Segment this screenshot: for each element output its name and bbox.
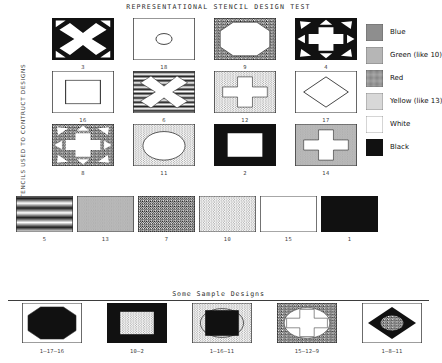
stencil-cell: [214, 18, 276, 60]
legend-label: Red: [390, 74, 403, 82]
stencil-swatch-18: [133, 18, 195, 60]
stencil-cell: [295, 124, 357, 166]
sample-swatch-3: [277, 303, 337, 343]
legend-swatch-blue: [366, 24, 383, 39]
stencil-cell: [260, 196, 317, 232]
stencil-number: 16: [52, 117, 114, 123]
legend-swatch-blue-fill: [366, 24, 383, 41]
sample-design: 10–2: [107, 303, 167, 354]
stencil-cell: [133, 124, 195, 166]
stencil-number: 1: [321, 236, 378, 242]
sample-design: 1–8–11: [362, 303, 422, 354]
sample-design: 1–16–11: [192, 303, 252, 354]
section-divider: [8, 300, 429, 301]
stencil-cell: [321, 196, 378, 232]
legend-label: Blue: [390, 28, 406, 36]
legend-swatch-red-fill: [366, 70, 383, 87]
sample-swatch-4: [362, 303, 422, 343]
legend-row: Black: [366, 135, 438, 158]
stencil-number: 18: [133, 64, 195, 70]
legend-swatch-black-fill: [366, 139, 383, 156]
stencil-number: 6: [133, 117, 195, 123]
stencil-cell: [16, 196, 73, 232]
legend-swatch-black: [366, 139, 383, 154]
stencil-cell: [214, 71, 276, 113]
stencil-cell: [52, 124, 114, 166]
stencil-cell: [295, 18, 357, 60]
legend-row: Blue: [366, 20, 438, 43]
stencil-cell: [133, 71, 195, 113]
stencil-number: 15: [260, 236, 317, 242]
stencil-number: 10: [199, 236, 256, 242]
sample-design: 1–17–16: [22, 303, 82, 354]
sample-designs-row: 1–17–1610–21–16–1115–12–91–8–11: [0, 303, 437, 361]
stencil-number: 2: [214, 170, 276, 176]
stencil-swatch-14: [295, 124, 357, 166]
stencil-swatch-6: [133, 71, 195, 113]
legend-swatch-white: [366, 116, 383, 131]
stencil-swatch-17: [295, 71, 357, 113]
legend-label: Black: [390, 143, 409, 151]
sample-swatch-1: [107, 303, 167, 343]
sample-label: 1–17–16: [22, 348, 82, 354]
stencil-number: 8: [52, 170, 114, 176]
stencil-number: 4: [295, 64, 357, 70]
legend-row: White: [366, 112, 438, 135]
stencil-swatch-2: [214, 124, 276, 166]
stencil-swatch-9: [214, 18, 276, 60]
legend-label: Yellow (like 13): [390, 97, 442, 105]
legend-swatch-white-fill: [366, 116, 383, 133]
legend-swatch-green-fill: [366, 47, 383, 64]
stencil-cell: [295, 71, 357, 113]
stencil-number: 5: [16, 236, 73, 242]
stencil-swatch-7: [138, 196, 195, 232]
stencil-number: 13: [77, 236, 134, 242]
stencil-swatch-8: [52, 124, 114, 166]
stencil-number: 3: [52, 64, 114, 70]
stencil-number: 12: [214, 117, 276, 123]
stencil-swatch-1: [321, 196, 378, 232]
legend-swatch-yellow-fill: [366, 93, 383, 110]
stencil-number: 7: [138, 236, 195, 242]
stencil-number: 9: [214, 64, 276, 70]
stencil-cell: [138, 196, 195, 232]
stencil-swatch-16: [52, 71, 114, 113]
sample-swatch-2: [192, 303, 252, 343]
sample-design: 15–12–9: [277, 303, 337, 354]
stencil-cell: [214, 124, 276, 166]
stencil-swatch-11: [133, 124, 195, 166]
stencil-cell: [52, 71, 114, 113]
legend-swatch-green: [366, 47, 383, 62]
legend-row: Red: [366, 66, 438, 89]
stencil-cell: [77, 196, 134, 232]
stencil-swatch-5: [16, 196, 73, 232]
color-legend: BlueGreen (like 10)RedYellow (like 13)Wh…: [366, 20, 438, 158]
stencil-swatch-4: [295, 18, 357, 60]
legend-swatch-red: [366, 70, 383, 85]
stencil-swatch-15: [260, 196, 317, 232]
sample-swatch-0: [22, 303, 82, 343]
samples-section-title: Some Sample Designs: [0, 290, 437, 298]
sample-label: 10–2: [107, 348, 167, 354]
stencil-number: 14: [295, 170, 357, 176]
stencil-swatch-12: [214, 71, 276, 113]
stencil-swatch-13: [77, 196, 134, 232]
stencil-cell: [199, 196, 256, 232]
stencil-swatch-3: [52, 18, 114, 60]
legend-row: Yellow (like 13): [366, 89, 438, 112]
legend-label: White: [390, 120, 410, 128]
sample-label: 1–16–11: [192, 348, 252, 354]
legend-swatch-yellow: [366, 93, 383, 108]
stencil-number: 11: [133, 170, 195, 176]
stencil-number: 17: [295, 117, 357, 123]
legend-label: Green (like 10): [390, 51, 442, 59]
stencil-cell: [133, 18, 195, 60]
stencil-cell: [52, 18, 114, 60]
sample-label: 1–8–11: [362, 348, 422, 354]
stencil-swatch-10: [199, 196, 256, 232]
sample-label: 15–12–9: [277, 348, 337, 354]
legend-row: Green (like 10): [366, 43, 438, 66]
